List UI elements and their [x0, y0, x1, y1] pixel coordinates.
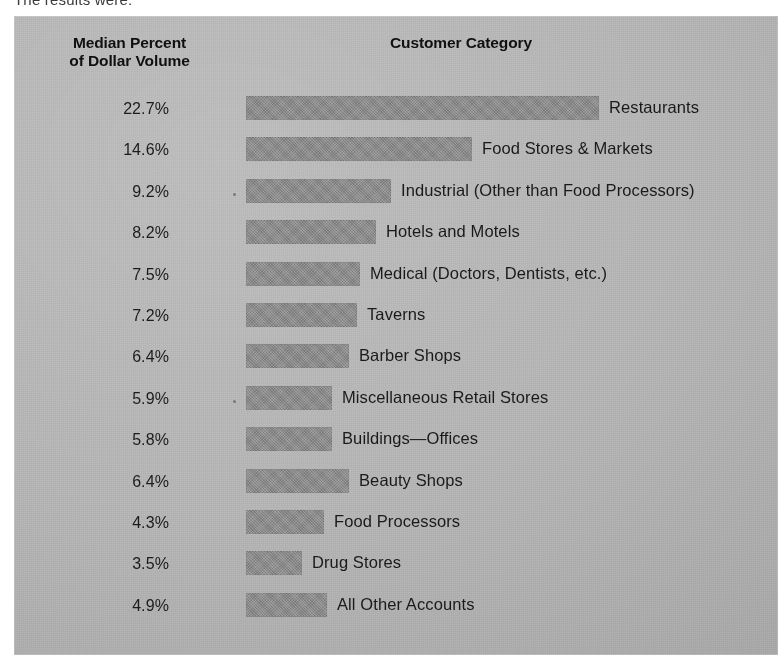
bar-value-label: 5.9%	[14, 390, 169, 408]
bar-rect	[246, 593, 327, 617]
scan-speck-artifact	[233, 400, 236, 403]
bar-rect	[246, 262, 360, 286]
bar-value-label: 7.2%	[14, 307, 169, 325]
chart-row: 9.2%Industrial (Other than Food Processo…	[14, 177, 778, 218]
bar-rect	[246, 427, 332, 451]
bar-value-label: 4.3%	[14, 514, 169, 532]
bar-rect	[246, 220, 376, 244]
chart-row: 3.5%Drug Stores	[14, 549, 778, 590]
chart-row: 5.8%Buildings—Offices	[14, 425, 778, 466]
chart-row: 6.4%Barber Shops	[14, 342, 778, 383]
bar-rect	[246, 386, 332, 410]
bar-rect	[246, 96, 599, 120]
chart-row: 8.2%Hotels and Motels	[14, 218, 778, 259]
bar-rect	[246, 303, 357, 327]
bar-category-label: Food Stores & Markets	[482, 139, 653, 158]
chart-row: 4.3%Food Processors	[14, 508, 778, 549]
bar-value-label: 8.2%	[14, 224, 169, 242]
bar-category-label: Food Processors	[334, 512, 460, 531]
bar-category-label: Drug Stores	[312, 553, 401, 572]
bar-category-label: Miscellaneous Retail Stores	[342, 388, 548, 407]
chart-row: 5.9%Miscellaneous Retail Stores	[14, 384, 778, 425]
scan-speck-artifact	[233, 193, 236, 196]
bar-category-label: Industrial (Other than Food Processors)	[401, 181, 695, 200]
chart-row: 4.9%All Other Accounts	[14, 591, 778, 632]
bar-rect	[246, 344, 349, 368]
bar-category-label: Barber Shops	[359, 346, 461, 365]
bar-category-label: Buildings—Offices	[342, 429, 478, 448]
bar-rect	[246, 469, 349, 493]
bar-value-label: 6.4%	[14, 473, 169, 491]
value-axis-title: Median Percent of Dollar Volume	[32, 34, 227, 69]
chart-row: 6.4%Beauty Shops	[14, 467, 778, 508]
bar-value-label: 14.6%	[14, 141, 169, 159]
bar-category-label: Beauty Shops	[359, 471, 463, 490]
chart-row: 7.2%Taverns	[14, 301, 778, 342]
bar-category-label: Taverns	[367, 305, 425, 324]
bar-value-label: 7.5%	[14, 266, 169, 284]
bar-value-label: 3.5%	[14, 555, 169, 573]
chart-row: 7.5%Medical (Doctors, Dentists, etc.)	[14, 260, 778, 301]
bar-value-label: 5.8%	[14, 431, 169, 449]
clipped-caption-text: The results were:	[14, 0, 132, 8]
chart-row: 14.6%Food Stores & Markets	[14, 135, 778, 176]
value-axis-title-line1: Median Percent	[73, 34, 186, 51]
bar-category-label: Hotels and Motels	[386, 222, 520, 241]
bar-category-label: Medical (Doctors, Dentists, etc.)	[370, 264, 607, 283]
bar-value-label: 9.2%	[14, 183, 169, 201]
bar-category-label: Restaurants	[609, 98, 699, 117]
bar-value-label: 22.7%	[14, 100, 169, 118]
bar-rect	[246, 510, 324, 534]
bar-rect	[246, 179, 391, 203]
category-axis-title: Customer Category	[246, 34, 676, 52]
bar-rect	[246, 137, 472, 161]
chart-header-row: Median Percent of Dollar Volume Customer…	[14, 34, 778, 82]
chart-rows-container: 22.7%Restaurants14.6%Food Stores & Marke…	[14, 94, 778, 632]
value-axis-title-line2: of Dollar Volume	[32, 52, 227, 70]
bar-category-label: All Other Accounts	[337, 595, 475, 614]
chart-row: 22.7%Restaurants	[14, 94, 778, 135]
bar-value-label: 6.4%	[14, 348, 169, 366]
bar-rect	[246, 551, 302, 575]
bar-chart-figure-panel: Median Percent of Dollar Volume Customer…	[14, 16, 778, 655]
bar-value-label: 4.9%	[14, 597, 169, 615]
